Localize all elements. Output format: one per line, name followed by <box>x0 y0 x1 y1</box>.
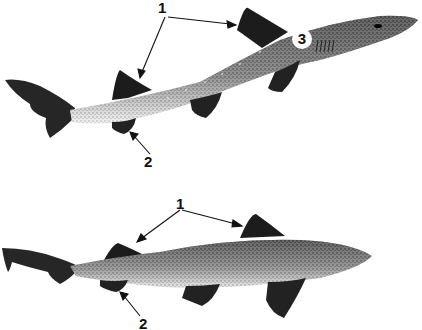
shark-illustration <box>0 0 422 330</box>
callout-1-bottom: 1 <box>176 196 184 211</box>
anal-fin <box>100 280 128 292</box>
first-dorsal-fin <box>240 214 285 238</box>
callout-2-top: 2 <box>144 154 152 169</box>
caudal-fin <box>2 248 78 284</box>
callout-2-bottom: 2 <box>139 316 147 330</box>
callout-3-top: 3 <box>292 29 312 49</box>
lower-shark <box>2 210 372 318</box>
caudal-fin <box>5 80 75 138</box>
upper-shark <box>5 8 418 154</box>
callout-1-top: 1 <box>158 0 166 15</box>
shark-figure: 1 2 3 1 2 <box>0 0 422 330</box>
pelvic-fin <box>182 284 220 306</box>
pectoral-fin <box>266 278 306 318</box>
eye <box>374 24 382 28</box>
